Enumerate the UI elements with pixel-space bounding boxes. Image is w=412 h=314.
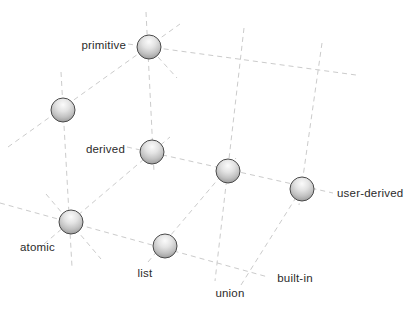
node-label-primitive: primitive [81,39,126,51]
node-sphere-derived [140,140,164,164]
datatype-lattice-diagram: primitivederiveduser-derivedatomiclistun… [0,0,412,314]
node-sphere-user-derived [290,177,314,201]
node-sphere-primitive [137,35,161,59]
node-label-list: list [138,267,153,279]
diagram-stage: primitivederiveduser-derivedatomiclistun… [0,0,412,314]
node-labels: primitivederiveduser-derivedatomiclistun… [20,39,403,299]
node-sphere-atomic [59,210,83,234]
node-sphere-list [153,234,177,258]
lattice-line-cross-primitive [158,57,177,78]
axis-label-union: union [215,287,244,299]
node-sphere-front-top [51,98,75,122]
lattice-line-row-bottom [0,203,268,277]
node-sphere-back-middle [216,159,240,183]
node-label-derived: derived [86,143,125,155]
lattice-line-vertical-back-middle [215,28,244,281]
node-label-user-derived: user-derived [337,187,403,199]
node-label-atomic: atomic [20,241,55,253]
axis-label-built-in: built-in [277,272,312,284]
